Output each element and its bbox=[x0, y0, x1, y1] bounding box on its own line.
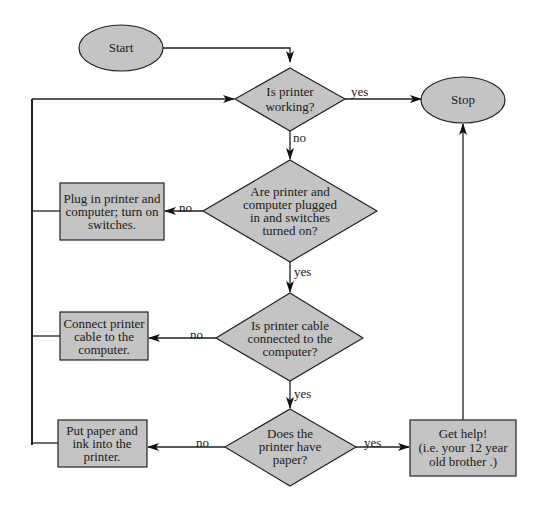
edge-start-to-working bbox=[163, 48, 290, 62]
svg-text:working?: working? bbox=[265, 99, 314, 114]
edge-labels: yes no no yes no yes no yes bbox=[179, 84, 381, 450]
process-connect-cable: Connect printer cable to the computer. bbox=[60, 312, 148, 360]
process-plug-in: Plug in printer and computer; turn on sw… bbox=[60, 183, 164, 240]
label-working-yes: yes bbox=[351, 84, 368, 99]
start-label: Start bbox=[109, 40, 134, 55]
stop-label: Stop bbox=[451, 92, 475, 107]
svg-text:Is printer: Is printer bbox=[266, 84, 314, 99]
label-paper-no: no bbox=[196, 435, 209, 450]
node-stop: Stop bbox=[421, 77, 505, 123]
process-get-help: Get help! (i.e. your 12 year old brother… bbox=[410, 420, 516, 476]
flowchart: yes no no yes no yes no yes Start Stop I… bbox=[0, 0, 545, 509]
connectors bbox=[32, 48, 463, 447]
svg-text:turned on?: turned on? bbox=[262, 223, 317, 238]
svg-text:Get help!: Get help! bbox=[439, 426, 488, 441]
svg-text:paper?: paper? bbox=[273, 452, 308, 467]
decision-plugged-in: Are printer and computer plugged in and … bbox=[203, 160, 377, 262]
svg-text:(i.e. your 12 year: (i.e. your 12 year bbox=[418, 440, 508, 455]
label-plugged-yes: yes bbox=[294, 264, 311, 279]
decision-printer-working: Is printer working? bbox=[235, 68, 345, 131]
svg-text:switches.: switches. bbox=[88, 217, 136, 232]
label-working-no: no bbox=[293, 130, 306, 145]
label-paper-yes: yes bbox=[364, 435, 381, 450]
label-plugged-no: no bbox=[179, 200, 192, 215]
decision-has-paper: Does the printer have paper? bbox=[225, 409, 356, 486]
node-start: Start bbox=[79, 25, 163, 71]
label-cable-yes: yes bbox=[294, 386, 311, 401]
label-cable-no: no bbox=[190, 327, 203, 342]
svg-text:printer.: printer. bbox=[83, 449, 120, 464]
svg-text:computer.: computer. bbox=[78, 342, 130, 357]
process-add-paper: Put paper and ink into the printer. bbox=[58, 420, 147, 467]
svg-text:computer?: computer? bbox=[263, 344, 318, 359]
decision-cable-connected: Is printer cable connected to the comput… bbox=[216, 293, 363, 381]
svg-text:old brother .): old brother .) bbox=[429, 454, 497, 469]
